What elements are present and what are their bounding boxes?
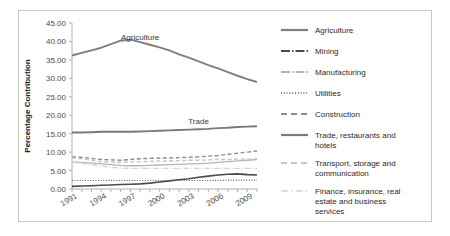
x-tick-label: 1997	[117, 191, 137, 208]
data-series	[72, 40, 257, 187]
x-tick-label: 2009	[234, 191, 254, 208]
y-tick-label: 35.00	[46, 56, 67, 65]
legend-item-label: hotels	[315, 141, 336, 150]
y-tick-label: 20.00	[46, 111, 67, 120]
y-axis-title-text: Percentage Contribution	[23, 59, 32, 152]
legend-item-label: Trade, restaurants and	[315, 131, 396, 140]
series-annotation: Trade	[188, 117, 209, 126]
y-tick-label: 5.00	[50, 167, 66, 176]
x-tick-label: 2000	[146, 191, 166, 208]
series-line	[72, 126, 257, 132]
series-line	[72, 174, 257, 187]
y-tick-label: 15.00	[46, 130, 67, 139]
chart-legend: AgricultureMiningManufacturingUtilitiesC…	[281, 26, 401, 216]
y-axis-tick-labels: 0.005.0010.0015.0020.0025.0030.0035.0040…	[46, 19, 72, 194]
legend-item-label: services	[315, 207, 344, 216]
legend-item-label: communication	[315, 169, 369, 178]
series-annotation: Agriculture	[121, 33, 160, 42]
y-tick-label: 25.00	[46, 93, 67, 102]
y-tick-label: 10.00	[46, 148, 67, 157]
x-axis-tick-labels: 1991199419972000200320062009	[59, 191, 255, 208]
x-tick-label: 2003	[176, 191, 196, 208]
legend-item-label: Mining	[315, 47, 339, 56]
y-tick-label: 30.00	[46, 74, 67, 83]
legend-item-label: Finance, insurance, real	[315, 187, 401, 196]
x-tick-label: 1994	[88, 191, 108, 208]
y-axis-title: Percentage Contribution	[23, 59, 32, 152]
legend-item-label: Utilities	[315, 89, 341, 98]
legend-item-label: Manufacturing	[315, 68, 366, 77]
x-tick-label: 2006	[205, 191, 225, 208]
chart-figure: Percentage Contribution 0.005.0010.0015.…	[18, 10, 432, 222]
y-tick-label: 0.00	[50, 185, 66, 194]
legend-item-label: estate and business	[315, 197, 386, 206]
series-line	[72, 40, 257, 82]
inline-series-annotations: AgricultureTrade	[121, 33, 209, 126]
legend-item-label: Transport, storage and	[315, 159, 396, 168]
line-chart: Percentage Contribution 0.005.0010.0015.…	[19, 11, 431, 221]
y-tick-label: 40.00	[46, 37, 67, 46]
y-tick-label: 45.00	[46, 19, 67, 28]
legend-item-label: Construction	[315, 110, 360, 119]
legend-item-label: Agriculture	[315, 26, 354, 35]
